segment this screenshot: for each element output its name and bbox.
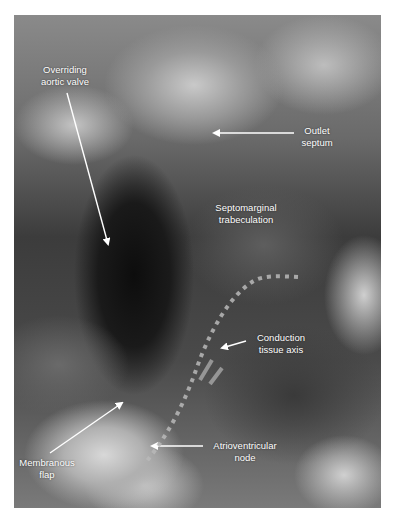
label-conduction-tissue-axis: Conduction tissue axis (246, 332, 316, 356)
arrow-conduction-axis (222, 341, 246, 348)
label-line: Membranous (12, 457, 82, 469)
label-outlet-septum: Outlet septum (292, 125, 342, 149)
label-line: node (202, 452, 288, 464)
bundle-branch-1 (200, 360, 212, 380)
arrow-membranous-flap (50, 403, 122, 453)
arrow-aortic-valve (67, 93, 108, 244)
label-line: Conduction (246, 332, 316, 344)
label-line: Septomarginal (203, 202, 289, 214)
label-line: septum (292, 137, 342, 149)
label-line: Overriding (30, 64, 100, 76)
label-line: flap (12, 469, 82, 481)
label-line: trabeculation (203, 214, 289, 226)
label-atrioventricular-node: Atrioventricular node (202, 440, 288, 464)
label-line: aortic valve (30, 76, 100, 88)
label-overriding-aortic-valve: Overriding aortic valve (30, 64, 100, 88)
label-line: Outlet (292, 125, 342, 137)
label-line: tissue axis (246, 344, 316, 356)
label-membranous-flap: Membranous flap (12, 457, 82, 481)
label-line: Atrioventricular (202, 440, 288, 452)
bundle-branch-2 (210, 368, 222, 384)
label-septomarginal-trabeculation: Septomarginal trabeculation (203, 202, 289, 226)
